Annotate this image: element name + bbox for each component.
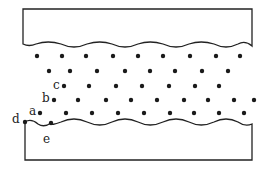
particle-dot (123, 69, 127, 73)
particle-dot (232, 98, 236, 102)
particle-dot (76, 98, 80, 102)
particle-dot (52, 98, 56, 102)
particle-dot (87, 84, 91, 88)
particle-dot (182, 98, 186, 102)
particle-dot (140, 84, 144, 88)
particle-dot (142, 111, 146, 115)
particle-dot (90, 111, 94, 115)
label-d: d (12, 112, 20, 126)
particle-dot (217, 111, 221, 115)
particle-dot (242, 111, 246, 115)
particle-dot (84, 54, 88, 58)
particle-dot (47, 69, 51, 73)
particle-dot (168, 111, 172, 115)
particle-dot (68, 69, 72, 73)
diagram-canvas: abcde (0, 0, 270, 175)
particle-dot (188, 54, 192, 58)
label-a: a (29, 104, 36, 118)
label-c: c (53, 78, 60, 92)
particle-dot (116, 111, 120, 115)
particle-dot (136, 54, 140, 58)
particle-dot (206, 98, 210, 102)
particle-dot (95, 69, 99, 73)
particle-dot (238, 54, 242, 58)
particle-dot (214, 54, 218, 58)
particle-dot (226, 69, 230, 73)
particle-dot (129, 98, 133, 102)
particle-dot (167, 84, 171, 88)
particle-dot-e (49, 121, 53, 125)
label-e: e (43, 132, 50, 146)
particle-dot (193, 84, 197, 88)
particle-dot (38, 111, 42, 115)
bottom-solid-boundary (25, 119, 252, 160)
particle-dot (111, 54, 115, 58)
particle-dot (252, 98, 256, 102)
label-b: b (42, 91, 50, 105)
particle-dot (60, 54, 64, 58)
particle-dot (192, 111, 196, 115)
particle-dot (155, 98, 159, 102)
particle-dot (64, 111, 68, 115)
particle-dot (35, 54, 39, 58)
particle-dot (173, 69, 177, 73)
particle-dot (161, 54, 165, 58)
particle-dot (114, 84, 118, 88)
particle-dot (217, 84, 221, 88)
particle-dot (62, 84, 66, 88)
particle-dot (104, 98, 108, 102)
point-labels: abcde (12, 78, 60, 146)
particle-dot-d (23, 120, 27, 124)
particle-dot (148, 69, 152, 73)
particle-dot (200, 69, 204, 73)
top-solid-boundary (23, 9, 252, 47)
